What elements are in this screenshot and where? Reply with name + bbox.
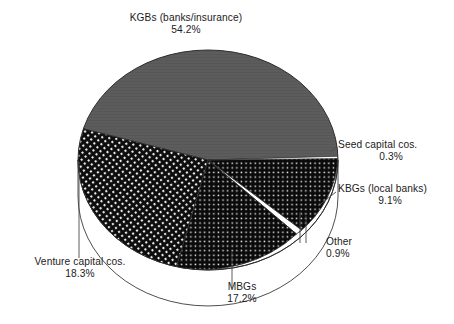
slice-label-kgbs-value: 54.2% [106, 24, 266, 36]
slice-label-kbgs: KBGs (local banks) 9.1% [338, 183, 450, 208]
slice-label-other: Other 0.9% [326, 236, 396, 261]
slice-label-kgbs-name: KGBs (banks/insurance) [106, 12, 266, 24]
slice-label-mbgs: MBGs 17.2% [206, 281, 278, 306]
pie-slices [77, 47, 338, 270]
pie-chart: KGBs (banks/insurance) 54.2% Seed capita… [0, 0, 454, 324]
slice-label-other-value: 0.9% [326, 248, 396, 260]
slice-label-mbgs-value: 17.2% [206, 293, 278, 305]
slice-label-venture-value: 18.3% [14, 268, 146, 280]
slice-label-seed-name: Seed capital cos. [338, 139, 450, 151]
slice-label-kbgs-value: 9.1% [338, 195, 442, 207]
slice-label-other-name: Other [326, 236, 396, 248]
slice-label-kgbs: KGBs (banks/insurance) 54.2% [106, 12, 266, 37]
slice-label-seed-value: 0.3% [338, 151, 444, 163]
slice-label-mbgs-name: MBGs [206, 281, 278, 293]
slice-label-venture: Venture capital cos. 18.3% [14, 256, 146, 281]
slice-label-venture-name: Venture capital cos. [14, 256, 146, 268]
slice-label-kbgs-name: KBGs (local banks) [338, 183, 450, 195]
slice-label-seed: Seed capital cos. 0.3% [338, 139, 450, 164]
